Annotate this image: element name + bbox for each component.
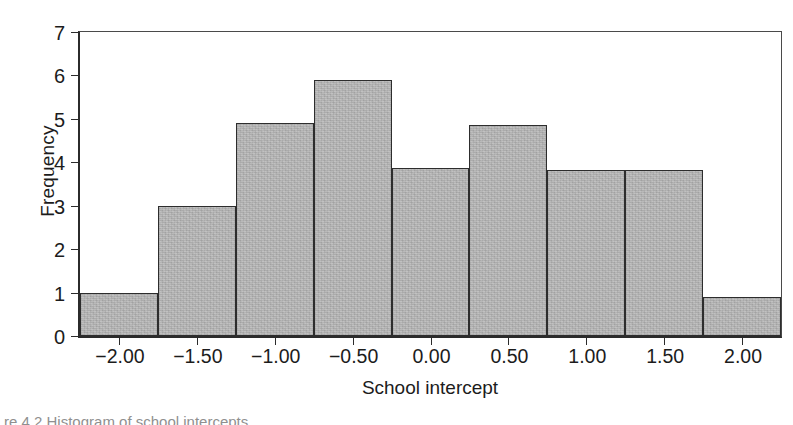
x-axis-title: School intercept: [78, 377, 782, 399]
histogram-bar: [314, 80, 392, 336]
figure-caption: re 4.2 Histogram of school intercepts: [0, 412, 793, 425]
x-axis-tick-label: 0.50: [490, 347, 528, 367]
x-axis-tick: −1.50: [197, 336, 198, 345]
y-axis-tick: 4: [71, 162, 80, 163]
histogram-bar: [703, 297, 781, 336]
y-axis-tick-label: 2: [54, 240, 65, 260]
y-axis-tick: 0: [71, 336, 80, 337]
y-axis-tick: 1: [71, 293, 80, 294]
x-axis-tick: 0.00: [431, 336, 432, 345]
histogram-bar: [625, 170, 703, 336]
x-axis-tick: 1.00: [586, 336, 587, 345]
plot-area: 01234567−2.00−1.50−1.00−0.500.000.501.00…: [78, 31, 782, 338]
histogram-bar: [80, 293, 158, 336]
y-axis-tick-label: 4: [54, 153, 65, 173]
x-axis-tick-label: −0.50: [329, 347, 378, 367]
x-axis-tick: −1.00: [275, 336, 276, 345]
y-axis-tick: 2: [71, 249, 80, 250]
y-axis-tick: 7: [71, 32, 80, 33]
y-axis-tick-label: 1: [54, 284, 65, 304]
histogram-bar: [392, 168, 470, 336]
y-axis-tick-label: 7: [54, 23, 65, 43]
x-axis-tick: 1.50: [664, 336, 665, 345]
histogram-bar: [547, 170, 625, 336]
histogram-bar: [236, 123, 314, 336]
x-axis-tick-label: 1.50: [646, 347, 684, 367]
y-axis-tick-label: 3: [54, 197, 65, 217]
x-axis-tick-label: 1.00: [568, 347, 606, 367]
x-axis-tick: −2.00: [119, 336, 120, 345]
histogram-bar: [469, 125, 547, 336]
y-axis-tick: 6: [71, 75, 80, 76]
x-axis-tick-label: 2.00: [724, 347, 762, 367]
x-axis-tick: 2.00: [742, 336, 743, 345]
y-axis-tick-label: 0: [54, 327, 65, 347]
y-axis-tick-label: 6: [54, 66, 65, 86]
x-axis-tick-label: 0.00: [413, 347, 451, 367]
y-axis-tick: 3: [71, 206, 80, 207]
histogram-bar: [158, 206, 236, 336]
y-axis-tick-label: 5: [54, 110, 65, 130]
x-axis-tick-label: −2.00: [95, 347, 144, 367]
x-axis-tick: 0.50: [508, 336, 509, 345]
y-axis-tick: 5: [71, 119, 80, 120]
x-axis-tick: −0.50: [353, 336, 354, 345]
histogram-figure: Frequency 01234567−2.00−1.50−1.00−0.500.…: [0, 0, 793, 425]
bars-container: [80, 32, 781, 336]
x-axis-tick-label: −1.50: [173, 347, 222, 367]
x-axis-tick-label: −1.00: [251, 347, 300, 367]
